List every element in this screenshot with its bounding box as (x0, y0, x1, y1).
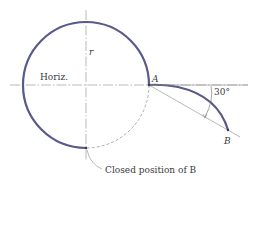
closed-position-label: Closed position of B (105, 166, 196, 175)
radius-label: r (89, 48, 93, 57)
closed-position-dashed-arc (86, 85, 149, 148)
point-b-marker (227, 129, 229, 131)
angle-label: 30° (214, 88, 230, 97)
closed-position-leader (87, 150, 102, 169)
point-a-marker (148, 84, 151, 87)
point-b-label: B (224, 137, 231, 146)
point-a-label: A (152, 75, 159, 84)
closed-position-marker (85, 147, 87, 149)
horizontal-label: Horiz. (40, 73, 68, 82)
